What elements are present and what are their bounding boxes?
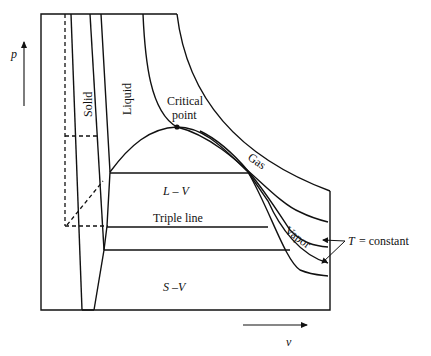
solid-region-lines <box>71 14 110 310</box>
critical-point-label-line1: Critical <box>167 94 204 108</box>
critical-point-marker <box>174 124 179 129</box>
liquid-label: Liquid <box>120 83 134 115</box>
p-axis-label: p <box>10 47 17 61</box>
triple-line-label: Triple line <box>153 211 203 225</box>
solid-vapor-label: S –V <box>163 280 187 294</box>
vapor-label: Vapor <box>282 223 313 251</box>
solid-label: Solid <box>81 92 95 117</box>
pv-diagram: p v Solid Liquid Critical point Gas Vapo… <box>0 0 431 356</box>
gas-label: Gas <box>245 150 269 172</box>
liquid-vapor-label: L – V <box>162 184 190 198</box>
v-axis-label: v <box>286 335 292 349</box>
dashed-lines <box>65 14 108 226</box>
triple-line <box>104 227 290 250</box>
critical-point-label-line2: point <box>172 108 197 122</box>
isotherm-constant-label: = constant <box>359 234 409 248</box>
diagram-frame <box>41 14 330 310</box>
isotherm-T-label: T <box>348 234 356 248</box>
isotherm-pointer-arrows <box>322 240 345 263</box>
